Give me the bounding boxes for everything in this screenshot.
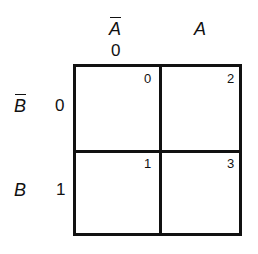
column-header-a: A <box>194 20 206 38</box>
cell-index-0: 0 <box>144 72 151 85</box>
row-code-1: 1 <box>56 181 65 198</box>
cell-index-2: 2 <box>227 72 234 85</box>
row-header-b: B <box>14 181 26 199</box>
column-code-0: 0 <box>111 42 120 59</box>
row-code-0: 0 <box>55 97 64 114</box>
grid-divider-horizontal <box>76 150 239 153</box>
row-header-b-bar: B <box>14 97 26 115</box>
column-header-a-bar: A <box>109 20 121 38</box>
cell-index-3: 3 <box>227 157 234 170</box>
kmap-grid: 0 2 1 3 <box>73 64 242 236</box>
cell-index-1: 1 <box>144 157 151 170</box>
